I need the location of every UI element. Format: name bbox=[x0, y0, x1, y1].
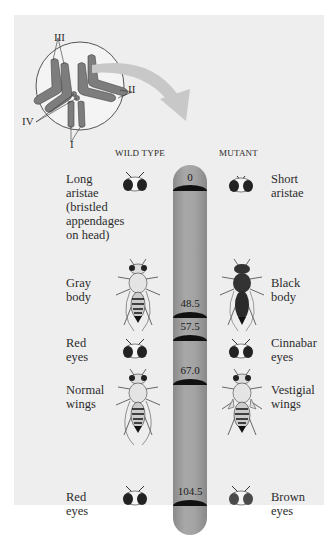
wild-type-header: Wild type bbox=[115, 148, 165, 158]
trait-short-aristae: Short aristae bbox=[271, 172, 304, 200]
mutant-header: Mutant bbox=[219, 148, 258, 158]
fly-head-icon bbox=[228, 484, 254, 506]
trait-gray-body: Gray body bbox=[66, 276, 91, 304]
trait-brown-eyes: Brown eyes bbox=[271, 490, 305, 518]
band-0 bbox=[173, 185, 207, 191]
fly-head-icon bbox=[228, 337, 254, 359]
band-104-5 bbox=[173, 500, 207, 506]
fly-body-icon bbox=[110, 365, 166, 447]
trait-vestigial-wings: Vestigial wings bbox=[271, 383, 315, 411]
fly-head-icon bbox=[122, 337, 148, 359]
chromosome-label-I: I bbox=[70, 137, 74, 151]
band-67-0 bbox=[173, 379, 207, 385]
chromosome-label-IV: IV bbox=[22, 114, 34, 128]
chromosome-map: 0 48.5 57.5 67.0 104.5 bbox=[173, 165, 207, 535]
band-48-5 bbox=[173, 312, 207, 318]
fly-body-icon bbox=[110, 255, 166, 335]
fly-head-icon bbox=[228, 173, 254, 193]
chromosome-label-III: III bbox=[54, 30, 65, 44]
fly-body-dark-icon bbox=[214, 255, 270, 335]
trait-red-eyes-2: Red eyes bbox=[66, 490, 88, 518]
fly-head-icon bbox=[122, 170, 148, 192]
locus-57-5: 57.5 bbox=[173, 320, 207, 332]
trait-long-aristae: Long aristae (bristled appendages on hea… bbox=[66, 172, 124, 242]
locus-67-0: 67.0 bbox=[173, 364, 207, 376]
band-57-5 bbox=[173, 335, 207, 341]
trait-black-body: Black body bbox=[271, 276, 300, 304]
curved-arrow-icon bbox=[90, 55, 200, 125]
locus-48-5: 48.5 bbox=[173, 297, 207, 309]
trait-normal-wings: Normal wings bbox=[66, 383, 104, 411]
locus-0: 0 bbox=[173, 171, 207, 183]
fly-vestigial-icon bbox=[214, 365, 270, 445]
fly-head-icon bbox=[122, 484, 148, 506]
trait-red-eyes: Red eyes bbox=[66, 336, 88, 364]
trait-cinnabar-eyes: Cinnabar eyes bbox=[271, 336, 317, 364]
locus-104-5: 104.5 bbox=[173, 485, 207, 497]
